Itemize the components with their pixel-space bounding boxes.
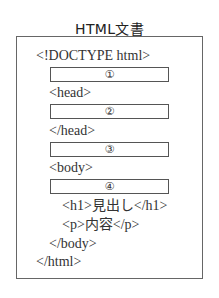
html-close-line: </html> xyxy=(36,254,81,270)
head-open-line: <head> xyxy=(49,85,91,101)
h1-line: <h1>見出し</h1> xyxy=(62,198,167,214)
body-close-line: </body> xyxy=(49,236,97,252)
diagram-title: HTML文書 xyxy=(0,18,219,38)
blank-slot-2: ② xyxy=(50,104,169,119)
blank-slot-4: ④ xyxy=(50,179,169,194)
head-close-line: </head> xyxy=(49,123,95,139)
doctype-line: <!DOCTYPE html> xyxy=(36,48,150,64)
blank-slot-1: ① xyxy=(50,67,169,82)
body-open-line: <body> xyxy=(49,160,93,176)
p-line: <p>内容</p> xyxy=(62,217,139,233)
blank-slot-3: ③ xyxy=(50,142,169,157)
